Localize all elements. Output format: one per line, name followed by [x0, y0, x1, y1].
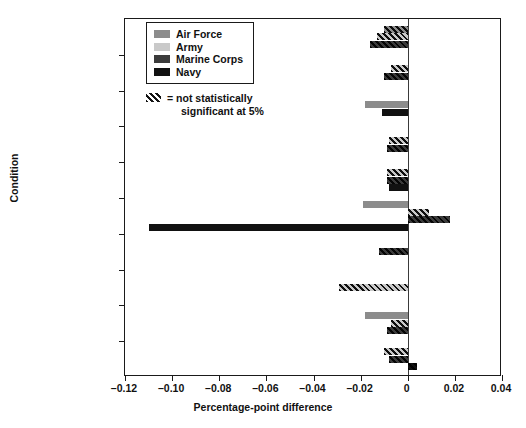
x-axis-title: Percentage-point difference [0, 401, 526, 413]
zero-reference-line [408, 19, 410, 375]
bar [387, 169, 408, 176]
x-tick [502, 375, 503, 381]
legend-label: Navy [176, 66, 201, 78]
y-axis-title: Condition [8, 154, 20, 203]
x-tick [219, 375, 220, 381]
bar-hatch-overlay [384, 348, 408, 355]
bar [391, 320, 407, 327]
y-tick [119, 91, 125, 92]
y-tick [119, 270, 125, 271]
bar [408, 216, 450, 223]
x-tick [408, 375, 409, 381]
legend-swatch [154, 68, 170, 76]
bar-hatch-overlay [391, 320, 407, 327]
bar-fill [365, 312, 407, 319]
bar-hatch-overlay [389, 137, 408, 144]
bar-hatch-overlay [389, 356, 408, 363]
y-tick [119, 162, 125, 163]
bar [389, 356, 408, 363]
bar [365, 101, 407, 108]
bar-fill [382, 109, 408, 116]
bar-fill [149, 224, 408, 231]
legend-label: Army [176, 41, 203, 53]
y-tick [119, 234, 125, 235]
bar-hatch-overlay [387, 177, 408, 184]
bar [377, 33, 408, 40]
bar [408, 209, 429, 216]
x-tick [125, 375, 126, 381]
bar-hatch-overlay [370, 41, 408, 48]
legend-significance-note: = not statisticallysignificant at 5% [146, 92, 264, 117]
legend-swatch [154, 30, 170, 38]
bar [379, 248, 407, 255]
bar-hatch-overlay [379, 248, 407, 255]
legend-label: Air Force [176, 28, 222, 40]
bar-hatch-overlay [387, 145, 408, 152]
bar [382, 109, 408, 116]
bar-hatch-overlay [408, 216, 450, 223]
bar [149, 224, 408, 231]
bar [387, 177, 408, 184]
legend-note-text: = not statisticallysignificant at 5% [167, 92, 264, 117]
legend-item[interactable]: Navy [154, 66, 243, 79]
bar-fill [363, 201, 408, 208]
bar-fill [365, 101, 407, 108]
legend-item[interactable]: Army [154, 41, 243, 54]
bar [384, 73, 408, 80]
y-tick [119, 55, 125, 56]
legend-item[interactable]: Air Force [154, 28, 243, 41]
bar [384, 348, 408, 355]
legend-swatch [154, 55, 170, 63]
x-tick [455, 375, 456, 381]
legend: Air ForceArmyMarine CorpsNavy [146, 22, 254, 84]
bar [391, 65, 407, 72]
y-tick [119, 198, 125, 199]
x-tick [314, 375, 315, 381]
bar [387, 145, 408, 152]
bar [370, 41, 408, 48]
bar [408, 363, 417, 370]
bar-hatch-overlay [387, 327, 408, 334]
chart-figure: Condition Abdominal:loosened 2004Asthma:… [0, 0, 526, 428]
bar [363, 201, 408, 208]
bar-hatch-overlay [408, 363, 417, 370]
x-tick [361, 375, 362, 381]
bar-hatch-overlay [391, 65, 407, 72]
bar [339, 284, 407, 291]
legend-swatch [154, 43, 170, 51]
bar [389, 184, 408, 191]
legend-item[interactable]: Marine Corps [154, 53, 243, 66]
legend-note-line2: significant at 5% [167, 105, 264, 118]
bar-hatch-overlay [384, 73, 408, 80]
hatch-pattern-icon [146, 93, 161, 102]
bar [387, 327, 408, 334]
bar [365, 312, 407, 319]
y-tick [119, 305, 125, 306]
bar-hatch-overlay [339, 284, 407, 291]
bar [389, 137, 408, 144]
legend-note-line1: = not statistically [167, 92, 253, 104]
legend-label: Marine Corps [176, 53, 243, 65]
y-tick [119, 126, 125, 127]
bar-fill [389, 184, 408, 191]
bar-hatch-overlay [377, 33, 408, 40]
bar-hatch-overlay [408, 209, 429, 216]
bar [384, 26, 408, 33]
bar-hatch-overlay [387, 169, 408, 176]
y-tick [119, 341, 125, 342]
bar-hatch-overlay [384, 26, 408, 33]
x-tick [172, 375, 173, 381]
x-tick-label: 0.04 [471, 382, 526, 394]
x-tick [266, 375, 267, 381]
